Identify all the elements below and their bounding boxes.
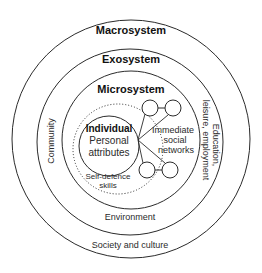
community-label: Community	[46, 118, 56, 164]
macrosystem-heading: Macrosystem	[96, 24, 167, 36]
skills-line2: skills	[99, 181, 116, 190]
education-label-line2: leisure, employment	[201, 100, 211, 181]
networks-line1: Immediate	[152, 125, 194, 135]
microsystem-heading: Microsystem	[97, 83, 164, 95]
network-node	[165, 100, 181, 116]
environment-label: Environment	[105, 212, 156, 222]
networks-line2: social	[163, 135, 186, 145]
society-culture-label: Society and culture	[92, 240, 169, 250]
individual-line1: Personal	[89, 135, 128, 146]
ecological-model-diagram: Macrosystem Exosystem Microsystem Indivi…	[0, 0, 262, 273]
individual-line2: attributes	[88, 147, 129, 158]
network-node	[162, 162, 178, 178]
individual-heading: Individual	[86, 123, 133, 134]
network-node	[139, 162, 155, 178]
exosystem-heading: Exosystem	[102, 53, 160, 65]
network-node	[142, 100, 158, 116]
education-label-line1: Education,	[211, 124, 221, 167]
skills-line1: Self-defence	[86, 172, 131, 181]
networks-line3: networks	[158, 145, 195, 155]
